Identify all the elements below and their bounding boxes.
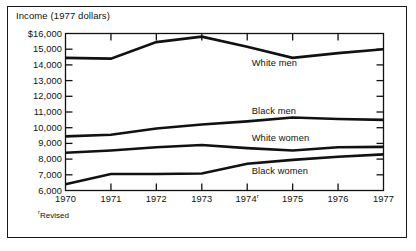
revised-footnote: rRevised	[38, 211, 69, 220]
x-tick-label: 1972	[146, 194, 167, 204]
series-line-white-women	[66, 145, 384, 153]
series-label-black-men: Black men	[252, 106, 296, 116]
footnote-text: Revised	[40, 211, 69, 220]
series-label-white-women: White women	[252, 133, 309, 143]
x-tick-label: 1977	[373, 194, 394, 204]
x-tick-label: 1975	[282, 194, 303, 204]
series-line-white-men	[66, 37, 384, 59]
series-line-black-women	[66, 154, 384, 184]
x-tick-label: 1971	[100, 194, 121, 204]
x-tick-label: 1973	[191, 194, 212, 204]
series-label-white-men: White men	[252, 58, 297, 68]
series-line-black-men	[66, 117, 384, 136]
x-tick-label: 1976	[328, 194, 349, 204]
income-line-chart-figure: Income (1977 dollars) $16,00015,00014,00…	[0, 0, 416, 251]
series-label-black-women: Black women	[252, 166, 308, 176]
x-tick-label: 1970	[55, 194, 76, 204]
series-lines-group	[66, 37, 384, 185]
x-tick-label: 1974r	[236, 194, 259, 204]
